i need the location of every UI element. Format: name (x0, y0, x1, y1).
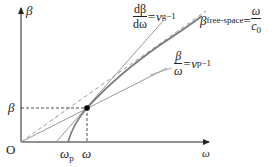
omega-p-label: ωp (60, 147, 74, 163)
x-axis-label: ω (202, 148, 210, 159)
free-space-label: βfree-space= ωc0 (200, 5, 261, 35)
y-axis-label: β (26, 4, 32, 17)
origin-label: O (6, 143, 15, 156)
operating-point (84, 105, 90, 111)
beta-point-label: β (8, 101, 14, 114)
group-velocity-label: dβdω =vg−1 (133, 3, 176, 30)
omega-point-label: ω (82, 147, 91, 160)
group-velocity-tangent (56, 21, 163, 142)
phase-velocity-line (21, 68, 167, 142)
dispersion-curve (68, 16, 202, 142)
phase-label-leader (150, 68, 172, 75)
phase-velocity-label: βω =vp−1 (174, 50, 211, 77)
